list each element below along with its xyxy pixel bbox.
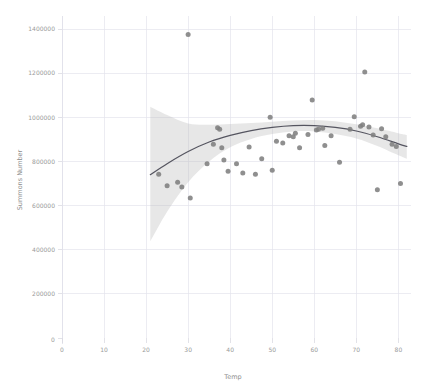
y-tick-label: 1200000 [28,69,55,76]
figure-background [0,0,430,386]
plot-canvas: 2000004000006000008000001000000120000014… [0,0,430,386]
x-tick-label: 40 [226,346,234,353]
data-point-marker [270,168,275,173]
data-point-marker [379,126,384,131]
data-point-marker [240,170,245,175]
data-point-marker [274,139,279,144]
data-point-marker [186,32,191,37]
data-point-marker [366,125,371,130]
data-point-marker [287,133,292,138]
data-point-marker [221,158,226,163]
data-point-marker [188,196,193,201]
data-point-marker [394,144,399,149]
data-point-marker [205,161,210,166]
data-point-marker [247,144,252,149]
data-point-marker [179,185,184,190]
data-point-marker [348,127,353,132]
data-point-marker [322,143,327,148]
data-point-marker [360,122,365,127]
data-point-marker [259,156,264,161]
y-tick-label: 800000 [32,158,55,165]
data-point-marker [352,114,357,119]
data-point-marker [293,131,298,136]
y-tick-label: 400000 [32,246,55,253]
data-point-marker [337,160,342,165]
data-point-marker [297,145,302,150]
data-point-marker [226,169,231,174]
scatter-plot-figure: 2000004000006000008000001000000120000014… [0,0,430,386]
data-point-marker [268,115,273,120]
x-tick-label: 50 [268,346,276,353]
x-tick-label: 80 [395,346,403,353]
data-point-marker [280,140,285,145]
data-point-marker [219,145,224,150]
data-point-marker [362,70,367,75]
data-point-marker [310,98,315,103]
data-point-marker [316,127,321,132]
data-point-marker [305,132,310,137]
data-point-marker [217,127,222,132]
x-tick-label: 30 [184,346,192,353]
data-point-marker [211,142,216,147]
data-point-marker [156,172,161,177]
data-point-marker [320,126,325,131]
x-tick-label: 60 [310,346,318,353]
x-tick-label: 70 [353,346,361,353]
data-point-marker [398,181,403,186]
y-axis-title: Summons Number [16,149,24,210]
x-axis-title: Temp [223,373,241,381]
data-point-marker [375,187,380,192]
data-point-marker [234,161,239,166]
y-tick-label: 1400000 [28,25,55,32]
x-tick-label: 0 [60,346,64,353]
origin-tick-label: 0 [51,336,55,343]
data-point-marker [383,134,388,139]
data-point-marker [329,133,334,138]
x-tick-label: 20 [142,346,150,353]
data-point-marker [371,132,376,137]
x-tick-label: 10 [100,346,108,353]
data-point-marker [175,180,180,185]
y-tick-label: 200000 [32,290,55,297]
data-point-marker [253,172,258,177]
data-point-marker [165,183,170,188]
y-tick-label: 600000 [32,202,55,209]
y-tick-label: 1000000 [28,114,55,121]
